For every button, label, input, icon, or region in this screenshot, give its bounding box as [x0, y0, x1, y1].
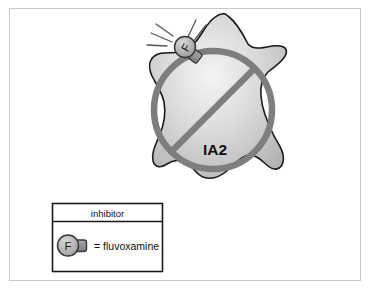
diagram-canvas: IA2 F inhibitor: [0, 0, 381, 298]
figure-root: IA2 F inhibitor: [0, 0, 381, 298]
legend-box: inhibitor F = fluvoxamine: [53, 204, 163, 272]
legend-row-text: = fluvoxamine: [94, 240, 159, 252]
legend-inhibitor-letter-f: F: [64, 240, 71, 252]
legend-header-label: inhibitor: [91, 208, 124, 219]
cell-label-ia2: IA2: [203, 141, 227, 158]
